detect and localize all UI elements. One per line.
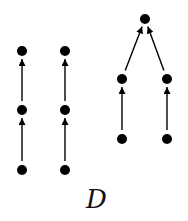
edges-group bbox=[22, 26, 167, 161]
node-l2 bbox=[117, 134, 127, 144]
node-a2 bbox=[17, 105, 27, 115]
node-b1 bbox=[60, 46, 70, 56]
edge-arrow-l1-to-t bbox=[125, 26, 142, 70]
edge-arrow-r1-to-t bbox=[148, 27, 164, 71]
node-r1 bbox=[162, 74, 172, 84]
node-r2 bbox=[162, 134, 172, 144]
node-l1 bbox=[117, 74, 127, 84]
node-a3 bbox=[17, 165, 27, 175]
figure-label: D bbox=[86, 186, 107, 212]
node-b2 bbox=[60, 105, 70, 115]
node-b3 bbox=[60, 165, 70, 175]
nodes-group bbox=[17, 14, 172, 175]
node-t bbox=[140, 14, 150, 24]
node-a1 bbox=[17, 46, 27, 56]
